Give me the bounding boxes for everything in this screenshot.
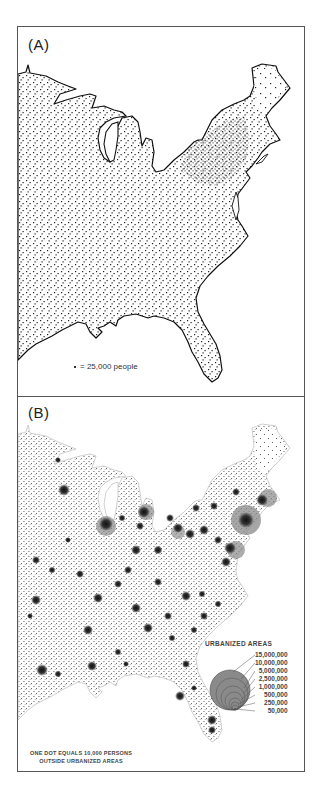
panel-divider: [17, 396, 305, 397]
panel-b-map: [18, 420, 304, 771]
urban-size-label: 50,000: [255, 707, 288, 715]
land-outline-a: [18, 64, 290, 382]
urban-size-label: 2,500,000: [255, 675, 288, 683]
urban-size-label: 250,000: [255, 699, 288, 707]
urbanized-areas-legend-graphic: [205, 650, 255, 720]
panel-b-dot-note: ONE DOT EQUALS 10,000 PERSONS OUTSIDE UR…: [30, 750, 132, 765]
panel-a-label: (A): [28, 36, 50, 53]
dot-symbol-icon: [74, 366, 76, 368]
panel-a-legend-text: = 25,000 people: [80, 362, 138, 371]
panel-b-note-line1: ONE DOT EQUALS 10,000 PERSONS: [30, 750, 132, 758]
urban-size-label: 5,000,000: [255, 667, 288, 675]
urban-size-label: 1,000,000: [255, 683, 288, 691]
urbanized-areas-sizes: 15,000,000 10,000,000 5,000,000 2,500,00…: [255, 651, 288, 715]
urban-size-label: 10,000,000: [255, 659, 288, 667]
urban-size-label: 500,000: [255, 691, 288, 699]
panel-a-map: [18, 60, 304, 396]
urbanized-areas-title: URBANIZED AREAS: [205, 640, 272, 647]
panel-b-label: (B): [28, 404, 50, 421]
urban-size-label: 15,000,000: [255, 651, 288, 659]
panel-b-note-line2: OUTSIDE URBANIZED AREAS: [30, 758, 132, 766]
panel-a-legend: = 25,000 people: [74, 362, 138, 371]
